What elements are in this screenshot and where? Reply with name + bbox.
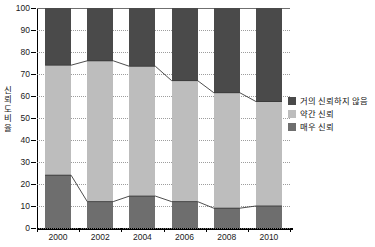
chart-legend: 거의 신뢰하지 않음약간 신뢰매우 신뢰	[288, 96, 368, 136]
bar-segment-high-trust	[256, 206, 282, 228]
bar-segment-high-trust	[172, 202, 198, 228]
y-axis-tick	[31, 228, 36, 229]
y-axis-tick	[31, 162, 36, 163]
bar-stack	[214, 8, 240, 228]
gridline	[37, 52, 290, 54]
legend-item-label: 매우 신뢰	[300, 122, 334, 132]
y-axis-tick-label: 0	[4, 223, 30, 233]
y-axis-tick-label: 10	[4, 201, 30, 211]
bar-segment-low-trust	[172, 8, 198, 81]
y-axis-tick-label: 100	[4, 3, 30, 13]
legend-swatch-icon	[288, 110, 296, 118]
x-axis-tick-label: 2002	[80, 232, 120, 242]
legend-item[interactable]: 거의 신뢰하지 않음	[288, 96, 368, 106]
bar-segment-low-trust	[129, 8, 155, 66]
y-axis-tick-label: 90	[4, 25, 30, 35]
x-axis-tick	[164, 228, 165, 232]
bar-segment-low-trust	[256, 8, 282, 102]
y-axis-tick	[31, 206, 36, 207]
bar-segment-some-trust	[129, 66, 155, 196]
chart-container: 신 뢰 도 비 율 1009080706050403020100 2000200…	[0, 0, 375, 247]
bar-segment-low-trust	[214, 8, 240, 93]
y-axis-tick-label: 20	[4, 179, 30, 189]
bar-segment-some-trust	[256, 102, 282, 207]
bar-segment-some-trust	[172, 81, 198, 202]
plot-area	[37, 8, 290, 228]
bar-segment-some-trust	[87, 61, 113, 202]
bar-segment-low-trust	[45, 8, 71, 65]
x-axis-tick-label: 2008	[207, 232, 247, 242]
x-axis-tick	[121, 228, 122, 232]
y-axis-tick-label: 60	[4, 91, 30, 101]
x-axis-tick	[37, 228, 38, 232]
y-axis-tick	[31, 140, 36, 141]
gridline	[37, 74, 290, 76]
bar-segment-high-trust	[214, 208, 240, 228]
y-axis-tick	[31, 96, 36, 97]
y-axis-tick-label: 70	[4, 69, 30, 79]
gridline	[37, 8, 290, 10]
gridline	[37, 30, 290, 32]
y-axis-tick-label: 40	[4, 135, 30, 145]
x-axis-tick-label: 2010	[249, 232, 289, 242]
bar-stack	[45, 8, 71, 228]
legend-item-label: 약간 신뢰	[300, 109, 334, 119]
x-axis-tick	[206, 228, 207, 232]
x-axis-tick-label: 2006	[165, 232, 205, 242]
bar-segment-some-trust	[45, 65, 71, 175]
y-axis-tick-label: 80	[4, 47, 30, 57]
bar-segment-high-trust	[45, 175, 71, 228]
x-axis-tick	[290, 228, 291, 232]
y-axis-tick	[31, 184, 36, 185]
x-axis-tick-label: 2004	[122, 232, 162, 242]
y-axis-tick	[31, 52, 36, 53]
x-axis-tick-label: 2000	[38, 232, 78, 242]
legend-item[interactable]: 약간 신뢰	[288, 109, 368, 119]
legend-swatch-icon	[288, 97, 296, 105]
y-axis-labels: 1009080706050403020100	[0, 0, 30, 247]
y-axis-tick	[31, 30, 36, 31]
x-axis-tick	[248, 228, 249, 232]
bar-stack	[172, 8, 198, 228]
legend-item[interactable]: 매우 신뢰	[288, 122, 368, 132]
gridline	[37, 162, 290, 164]
y-axis-tick	[31, 74, 36, 75]
bar-segment-some-trust	[214, 93, 240, 209]
gridline	[37, 118, 290, 120]
x-axis-tick	[79, 228, 80, 232]
bar-segment-high-trust	[129, 196, 155, 228]
gridline	[37, 140, 290, 142]
gridline	[37, 206, 290, 208]
bar-segment-high-trust	[87, 202, 113, 228]
gridline	[37, 184, 290, 186]
bar-segment-low-trust	[87, 8, 113, 61]
gridline	[37, 96, 290, 98]
legend-swatch-icon	[288, 123, 296, 131]
y-axis-tick-label: 50	[4, 113, 30, 123]
legend-item-label: 거의 신뢰하지 않음	[300, 96, 369, 106]
y-axis-tick-label: 30	[4, 157, 30, 167]
bar-stack	[87, 8, 113, 228]
y-axis-tick	[31, 8, 36, 9]
bar-stack	[256, 8, 282, 228]
y-axis-tick	[31, 118, 36, 119]
bar-stack	[129, 8, 155, 228]
